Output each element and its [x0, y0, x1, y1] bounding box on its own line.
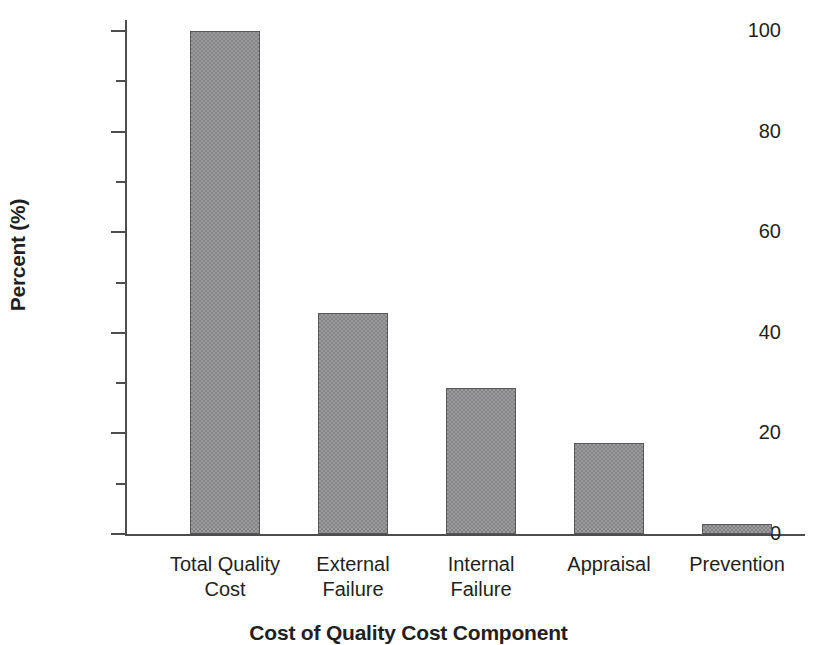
plot-area: 020406080100 [125, 20, 805, 536]
y-tick-major [111, 231, 125, 233]
y-tick-minor [116, 80, 125, 82]
y-axis-line [125, 20, 127, 536]
y-tick-minor [116, 282, 125, 284]
bar [574, 443, 644, 534]
y-tick-major [111, 533, 125, 535]
y-tick-minor [116, 181, 125, 183]
y-tick-major [111, 131, 125, 133]
x-category-label-line: Prevention [647, 552, 817, 577]
y-tick-label: 100 [721, 20, 781, 40]
bar [446, 388, 516, 534]
y-tick-major [111, 332, 125, 334]
x-axis-line [125, 534, 805, 536]
x-axis-title: Cost of Quality Cost Component [0, 621, 817, 645]
y-tick-major [111, 432, 125, 434]
x-category-label: Prevention [647, 552, 817, 577]
y-tick-label: 20 [721, 422, 781, 442]
x-category-label-line: Failure [391, 577, 571, 602]
bar [318, 313, 388, 534]
y-tick-label: 80 [721, 121, 781, 141]
y-tick-label: 40 [721, 322, 781, 342]
bar [702, 524, 772, 534]
y-tick-major [111, 30, 125, 32]
y-tick-minor [116, 382, 125, 384]
y-tick-minor [116, 483, 125, 485]
bar [190, 31, 260, 534]
y-tick-label: 60 [721, 221, 781, 241]
y-axis-title: Percent (%) [6, 175, 30, 335]
